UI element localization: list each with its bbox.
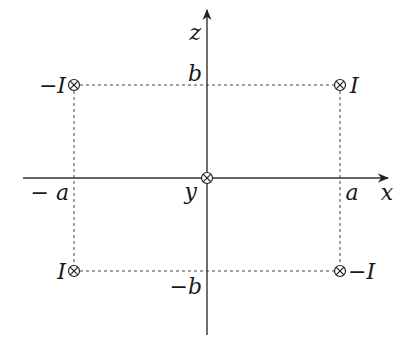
- x-pos-tick-label: a: [345, 180, 358, 205]
- x-axis-label: x: [381, 180, 394, 205]
- current-bottom-left-icon: [69, 266, 80, 277]
- z-pos-tick-label: b: [188, 61, 202, 86]
- x-neg-tick-label: − a: [30, 180, 69, 205]
- z-neg-tick-label: −b: [169, 274, 202, 299]
- current-bottom-right-label: −I: [348, 259, 376, 284]
- origin-y-label: y: [184, 179, 198, 204]
- current-top-right-label: I: [349, 73, 360, 98]
- current-top-right-icon: [335, 80, 346, 91]
- current-bottom-right-icon: [335, 266, 346, 277]
- origin-current-symbol: [202, 173, 213, 184]
- current-top-left-label: −I: [39, 73, 67, 98]
- current-bottom-left-label: I: [56, 259, 67, 284]
- current-top-left-icon: [69, 80, 80, 91]
- current-diagram: −I I I −I z x y b −b − a a: [0, 0, 414, 348]
- z-axis-label: z: [188, 20, 201, 45]
